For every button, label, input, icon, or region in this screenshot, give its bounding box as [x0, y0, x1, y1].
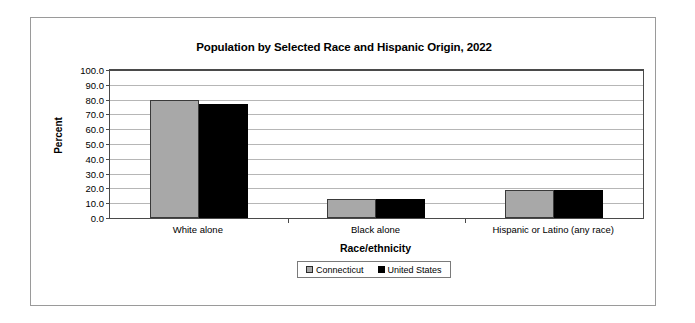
legend-label: United States [388, 265, 442, 275]
bar-united-states [554, 190, 603, 218]
bars-layer [110, 70, 643, 218]
y-tick-label: 60.0 [86, 124, 105, 135]
bar-connecticut [505, 190, 554, 218]
y-tick-label: 100.0 [80, 65, 104, 76]
x-tick-label: Hispanic or Latino (any race) [492, 224, 613, 235]
x-tick-label: Black alone [351, 224, 400, 235]
x-axis-title: Race/ethnicity [109, 242, 642, 254]
figure-frame: Population by Selected Race and Hispanic… [30, 17, 656, 306]
bar-group [110, 70, 288, 218]
bar-united-states [376, 199, 425, 218]
bar-group [465, 70, 643, 218]
x-tick-label: White alone [173, 224, 223, 235]
black-square-swatch [378, 266, 385, 273]
y-tick-mark [106, 218, 110, 219]
legend-item: Connecticut [306, 265, 364, 275]
y-tick-label: 50.0 [86, 139, 105, 150]
x-tick-mark [465, 218, 466, 223]
plot-area: 100.090.080.070.060.050.040.030.020.010.… [109, 69, 644, 219]
legend-item: United States [378, 265, 442, 275]
bar-connecticut [150, 100, 199, 218]
bar-connecticut [327, 199, 376, 218]
gridline [110, 218, 643, 219]
y-tick-label: 70.0 [86, 109, 105, 120]
x-axis-tick-labels: White aloneBlack aloneHispanic or Latino… [109, 224, 642, 240]
y-axis-title: Percent [53, 106, 64, 166]
y-tick-label: 90.0 [86, 79, 105, 90]
gray-square-swatch [306, 266, 313, 273]
y-tick-label: 10.0 [86, 198, 105, 209]
y-tick-label: 0.0 [91, 213, 104, 224]
chart-legend: ConnecticutUnited States [297, 261, 451, 278]
x-tick-mark [288, 218, 289, 223]
y-tick-label: 30.0 [86, 168, 105, 179]
y-tick-label: 40.0 [86, 153, 105, 164]
chart-title: Population by Selected Race and Hispanic… [31, 41, 657, 53]
y-tick-label: 80.0 [86, 94, 105, 105]
y-tick-label: 20.0 [86, 183, 105, 194]
bar-group [288, 70, 466, 218]
bar-united-states [199, 104, 248, 218]
legend-label: Connecticut [316, 265, 364, 275]
